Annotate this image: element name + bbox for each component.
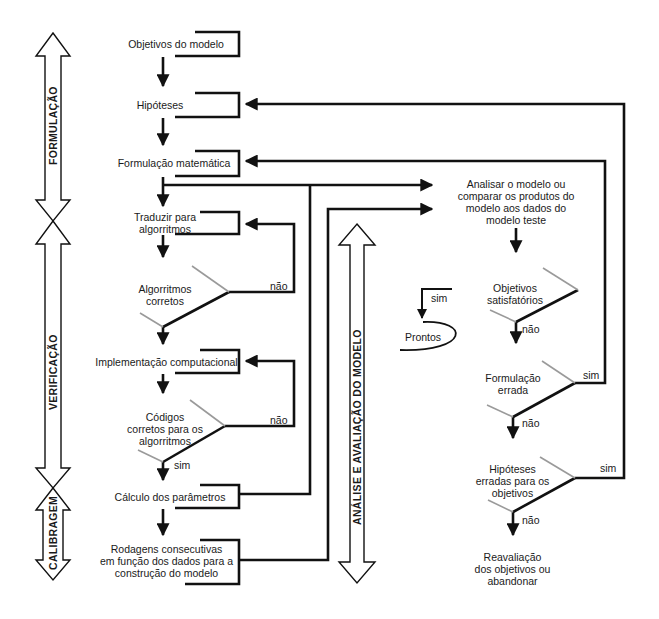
- step-rodagens-consecutivas: Rodagens consecutivas em função dos dado…: [95, 543, 238, 579]
- step-calculo-text: Cálculo dos parâmetros: [115, 491, 226, 503]
- decision-objetivos-satisfatorios: Objetivos satisfatórios: [480, 282, 550, 306]
- edge-label-prontos-sim: sim: [431, 292, 447, 304]
- edge-label-codigos-sim: sim: [174, 459, 190, 471]
- terminal-reavaliacao: Reavaliação dos objetivos ou abandonar: [465, 551, 560, 587]
- decision-hipoteses-erradas: Hipóteses erradas para os objetivos: [470, 463, 555, 499]
- step-analisar-line4: modelo teste: [450, 214, 582, 226]
- edge-label-hipoteses-nao: não: [522, 514, 540, 526]
- decision-formulacao-line1: Formulação: [478, 372, 548, 384]
- phase-label-formulacao: FORMULAÇÃO: [47, 86, 59, 165]
- step-implementacao-computacional: Implementação computacional: [95, 356, 238, 368]
- step-objetivos-do-modelo: Objetivos do modelo: [115, 38, 237, 50]
- edge-label-hipoteses-sim: sim: [600, 462, 616, 474]
- decision-hipoteses-line3: objetivos: [470, 487, 555, 499]
- step-formulacao-text: Formulação matemática: [118, 157, 231, 169]
- decision-formulacao-errada: Formulação errada: [478, 372, 548, 396]
- decision-codigos-line3: algorritmos: [120, 435, 210, 447]
- step-calculo-dos-parametros: Cálculo dos parâmetros: [105, 491, 235, 503]
- terminal-prontos-text: Prontos: [405, 331, 441, 343]
- edge-label-formulacao-sim: sim: [583, 369, 599, 381]
- step-objetivos-text: Objetivos do modelo: [128, 38, 224, 50]
- edge-label-formulacao-nao: não: [522, 417, 540, 429]
- phase-label-calibragem: CALIBRAGEM: [47, 496, 59, 570]
- modeling-flowchart: FORMULAÇÃO VERIFICAÇÃO CALIBRAGEM ANÁLIS…: [0, 0, 659, 619]
- decision-objetivos-line2: satisfatórios: [480, 294, 550, 306]
- decision-hipoteses-line1: Hipóteses: [470, 463, 555, 475]
- step-analisar-line1: Analisar o modelo ou: [450, 178, 582, 190]
- decision-objetivos-line1: Objetivos: [480, 282, 550, 294]
- step-analisar-line2: comparar os produtos do: [450, 190, 582, 202]
- step-rodagens-line2: em função dos dados para a: [95, 555, 238, 567]
- step-implementacao-text: Implementação computacional: [95, 356, 237, 368]
- decision-codigos-line2: corretos para os: [120, 423, 210, 435]
- connector-layer: [0, 0, 659, 619]
- edge-label-codigos-nao: não: [270, 414, 288, 426]
- step-traduzir-line2: algorritmos: [125, 223, 205, 235]
- step-traduzir-line1: Traduzir para: [125, 211, 205, 223]
- decision-algoritmos-corretos: Algorritmos corretos: [125, 283, 205, 307]
- terminal-reavaliacao-line3: abandonar: [465, 575, 560, 587]
- terminal-prontos: Prontos: [398, 331, 448, 343]
- decision-algoritmos-line2: corretos: [125, 295, 205, 307]
- edge-label-algoritmos-nao: não: [270, 280, 288, 292]
- terminal-reavaliacao-line1: Reavaliação: [465, 551, 560, 563]
- step-analisar-line3: modelo aos dados do: [450, 202, 582, 214]
- decision-codigos-line1: Códigos: [120, 411, 210, 423]
- step-traduzir-para-algoritmos: Traduzir para algorritmos: [125, 211, 205, 235]
- phase-label-analise: ANÁLISE E AVALIAÇÃO DO MODELO: [351, 329, 363, 525]
- step-hipoteses-text: Hipóteses: [137, 99, 184, 111]
- decision-hipoteses-line2: erradas para os: [470, 475, 555, 487]
- terminal-reavaliacao-line2: dos objetivos ou: [465, 563, 560, 575]
- step-formulacao-matematica: Formulação matemática: [110, 157, 238, 169]
- step-rodagens-line1: Rodagens consecutivas: [95, 543, 238, 555]
- decision-algoritmos-line1: Algorritmos: [125, 283, 205, 295]
- step-analisar-modelo: Analisar o modelo ou comparar os produto…: [450, 178, 582, 226]
- phase-label-verificacao: VERIFICAÇÃO: [47, 334, 59, 410]
- decision-formulacao-line2: errada: [478, 384, 548, 396]
- decision-codigos-corretos: Códigos corretos para os algorritmos: [120, 411, 210, 447]
- edge-label-objetivos-nao: não: [522, 323, 540, 335]
- step-hipoteses: Hipóteses: [115, 99, 205, 111]
- step-rodagens-line3: construção do modelo: [95, 567, 238, 579]
